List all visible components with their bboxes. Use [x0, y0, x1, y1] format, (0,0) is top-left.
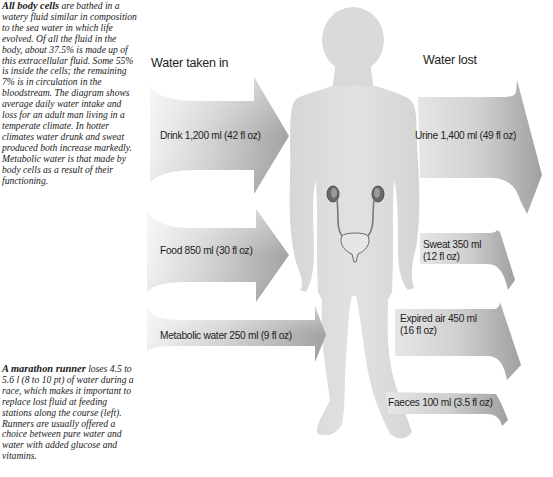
loss-arrow-urine	[418, 80, 542, 214]
drink-label: Drink 1,200 ml (42 fl oz)	[160, 130, 261, 142]
sweat-label-line1: Sweat 350 ml	[423, 239, 481, 251]
water-taken-in-heading: Water taken in	[151, 56, 228, 70]
metabolic-water-label: Metabolic water 250 ml (9 fl oz)	[160, 330, 292, 342]
faeces-label: Faeces 100 ml (3.5 fl oz)	[388, 397, 493, 409]
urine-label: Urine 1,400 ml (49 fl oz)	[415, 130, 516, 142]
human-figure-silhouette	[290, 7, 420, 438]
expired-air-label-line2: (16 fl oz)	[400, 325, 477, 337]
water-lost-heading: Water lost	[423, 53, 477, 67]
expired-air-label-line1: Expired air 450 ml	[400, 313, 477, 325]
sweat-label-line2: (12 fl oz)	[423, 251, 481, 263]
sweat-label: Sweat 350 ml(12 fl oz)	[423, 239, 481, 263]
food-label: Food 850 ml (30 fl oz)	[160, 245, 253, 257]
expired-air-label: Expired air 450 ml(16 fl oz)	[400, 313, 477, 337]
